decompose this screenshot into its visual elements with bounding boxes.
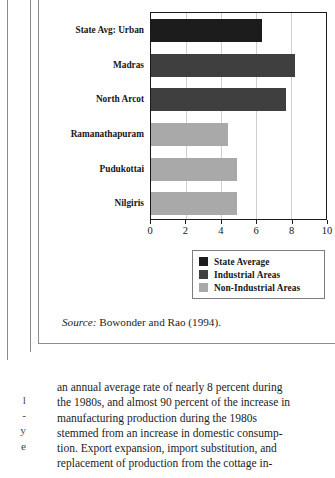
legend-label: Non-Industrial Areas — [214, 283, 300, 293]
body-line: an annual average rate of nearly 8 perce… — [57, 380, 335, 395]
bar — [151, 19, 262, 42]
bar-row: Ramanathapuram — [151, 123, 326, 146]
source-label: Source: — [62, 316, 96, 328]
page-gutter-rule-outer — [7, 0, 8, 360]
bar-row: State Avg: Urban — [151, 19, 326, 42]
adjacent-column-fragment: l-ye — [0, 393, 26, 454]
legend-swatch-icon — [199, 270, 208, 279]
gridline — [221, 13, 222, 219]
body-line: manufacturing production during the 1980… — [57, 411, 335, 426]
x-tick-label: 6 — [244, 225, 268, 236]
body-line: replacement of production from the cotta… — [57, 456, 335, 471]
bar-chart: State Avg: UrbanMadrasNorth ArcotRamanat… — [38, 0, 335, 250]
category-label: North Arcot — [24, 88, 144, 111]
bar — [151, 88, 286, 111]
x-tick-mark — [292, 220, 293, 224]
fragment-line: - — [0, 408, 26, 423]
x-tick-mark — [221, 220, 222, 224]
x-tick-mark — [327, 220, 328, 224]
bar — [151, 54, 295, 77]
x-tick-label: 4 — [209, 225, 233, 236]
chart-legend: State AverageIndustrial AreasNon-Industr… — [192, 250, 325, 299]
fragment-line: y — [0, 423, 26, 438]
x-tick-label: 0 — [138, 225, 162, 236]
category-label: Ramanathapuram — [24, 123, 144, 146]
x-tick-mark — [150, 220, 151, 224]
bar-row: Nilgiris — [151, 192, 326, 215]
legend-item: Industrial Areas — [199, 268, 319, 281]
bar-row: Pudukottai — [151, 158, 326, 181]
plot-area: State Avg: UrbanMadrasNorth ArcotRamanat… — [150, 12, 327, 220]
category-label: Madras — [24, 54, 144, 77]
gridline — [186, 13, 187, 219]
gridline — [256, 13, 257, 219]
x-tick-label: 2 — [173, 225, 197, 236]
x-tick-label: 8 — [280, 225, 304, 236]
bar — [151, 158, 237, 181]
legend-swatch-icon — [199, 283, 208, 292]
fragment-line: e — [0, 439, 26, 454]
legend-item: Non-Industrial Areas — [199, 281, 319, 294]
category-label: Pudukottai — [24, 158, 144, 181]
x-tick-mark — [256, 220, 257, 224]
x-axis: 0246810 — [150, 220, 327, 242]
body-paragraph: an annual average rate of nearly 8 perce… — [57, 380, 335, 472]
gridline — [291, 13, 292, 219]
figure-source: Source: Bowonder and Rao (1994). — [62, 316, 221, 328]
bar-row: Madras — [151, 54, 326, 77]
fragment-line: l — [0, 393, 26, 408]
body-line: stemmed from an increase in domestic con… — [57, 426, 335, 441]
category-label: State Avg: Urban — [24, 19, 144, 42]
category-label: Nilgiris — [24, 192, 144, 215]
legend-item: State Average — [199, 255, 319, 268]
legend-label: Industrial Areas — [214, 270, 280, 280]
body-line: tion. Export expansion, import substitut… — [57, 441, 335, 456]
source-citation: Bowonder and Rao (1994). — [96, 316, 221, 328]
bar-row: North Arcot — [151, 88, 326, 111]
bar — [151, 123, 228, 146]
legend-swatch-icon — [199, 257, 208, 266]
x-tick-label: 10 — [315, 225, 335, 236]
bar — [151, 192, 237, 215]
body-line: the 1980s, and almost 90 percent of the … — [57, 395, 335, 410]
x-tick-mark — [185, 220, 186, 224]
legend-label: State Average — [214, 257, 270, 267]
